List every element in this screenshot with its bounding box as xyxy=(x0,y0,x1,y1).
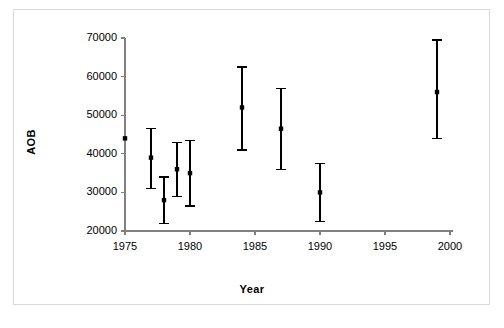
data-point-1980 xyxy=(185,140,195,206)
y-axis-tick-label: 20000 xyxy=(57,224,117,236)
y-axis-tick-label: 50000 xyxy=(57,108,117,120)
x-axis-tick-label: 1980 xyxy=(160,240,220,252)
data-marker xyxy=(188,171,192,175)
y-axis-tick-label: 40000 xyxy=(57,147,117,159)
data-point-1999 xyxy=(432,40,442,138)
data-point-1975 xyxy=(123,136,127,140)
x-axis-tick-label: 1995 xyxy=(355,240,415,252)
data-marker xyxy=(123,136,127,140)
data-marker xyxy=(162,198,166,202)
scatter-plot-canvas xyxy=(0,0,504,328)
x-axis-title: Year xyxy=(0,283,504,295)
x-axis-tick-label: 1985 xyxy=(225,240,285,252)
data-point-1977 xyxy=(146,129,156,189)
y-axis-tick-label: 70000 xyxy=(57,31,117,43)
y-axis-title-text: AOB xyxy=(25,129,37,155)
data-point-1987 xyxy=(276,88,286,169)
chart-figure: 200003000040000500006000070000 197519801… xyxy=(0,0,504,328)
axes xyxy=(121,38,453,235)
data-series-aob xyxy=(123,40,442,223)
data-marker xyxy=(149,155,153,159)
data-point-1979 xyxy=(172,142,182,196)
x-axis-tick-label: 2000 xyxy=(420,240,480,252)
data-point-1978 xyxy=(159,177,169,223)
y-axis-title: AOB xyxy=(22,112,40,172)
data-point-1984 xyxy=(237,67,247,150)
data-point-1990 xyxy=(315,163,325,221)
y-axis-tick-label: 60000 xyxy=(57,70,117,82)
data-marker xyxy=(318,190,322,194)
x-axis-tick-label: 1975 xyxy=(95,240,155,252)
data-marker xyxy=(240,105,244,109)
y-axis-tick-label: 30000 xyxy=(57,185,117,197)
data-marker xyxy=(279,127,283,131)
data-marker xyxy=(175,167,179,171)
x-axis-tick-label: 1990 xyxy=(290,240,350,252)
data-marker xyxy=(435,90,439,94)
